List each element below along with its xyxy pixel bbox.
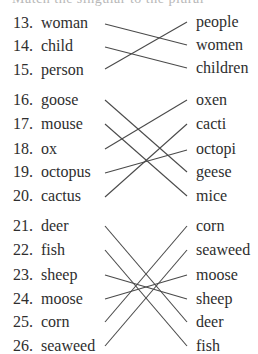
plural-word: moose	[196, 265, 238, 285]
singular-word: ox	[41, 139, 57, 159]
list-item: 16. goose oxen	[0, 90, 258, 110]
singular-word: person	[41, 60, 84, 80]
list-item: 26. seaweed fish	[0, 336, 258, 354]
singular-word: corn	[41, 312, 69, 332]
list-item: 24. moose sheep	[0, 289, 258, 309]
list-item: 13. woman people	[0, 13, 258, 33]
item-number: 25.	[13, 312, 39, 332]
singular-word: sheep	[41, 265, 77, 285]
singular-word: deer	[41, 216, 69, 236]
singular-word: woman	[41, 13, 88, 33]
singular-word: seaweed	[41, 336, 95, 354]
plural-word: oxen	[196, 90, 227, 110]
plural-word: mice	[196, 186, 227, 206]
singular-word: fish	[41, 240, 65, 260]
plural-word: seaweed	[196, 240, 250, 260]
item-number: 20.	[13, 186, 39, 206]
item-number: 18.	[13, 139, 39, 159]
item-number: 17.	[13, 114, 39, 134]
item-number: 23.	[13, 265, 39, 285]
item-number: 24.	[13, 289, 39, 309]
plural-word: corn	[196, 216, 224, 236]
list-item: 17. mouse cacti	[0, 114, 258, 134]
item-number: 21.	[13, 216, 39, 236]
plural-word: fish	[196, 336, 220, 354]
singular-word: cactus	[41, 186, 81, 206]
plural-word: deer	[196, 312, 224, 332]
item-number: 14.	[13, 36, 39, 56]
item-number: 15.	[13, 60, 39, 80]
singular-word: mouse	[41, 114, 83, 134]
item-number: 22.	[13, 240, 39, 260]
plural-word: women	[196, 35, 243, 55]
list-item: 21. deer corn	[0, 216, 258, 236]
singular-word: goose	[41, 90, 78, 110]
plural-word: cacti	[196, 114, 226, 134]
list-item: 15. person children	[0, 60, 258, 80]
list-item: 18. ox octopi	[0, 139, 258, 159]
plural-word: people	[196, 12, 239, 32]
plural-word: children	[196, 58, 248, 78]
singular-word: moose	[41, 289, 83, 309]
list-item: 23. sheep moose	[0, 265, 258, 285]
item-number: 19.	[13, 162, 39, 182]
singular-word: octopus	[41, 162, 91, 182]
list-item: 19. octopus geese	[0, 162, 258, 182]
list-item: 20. cactus mice	[0, 186, 258, 206]
singular-word: child	[41, 36, 73, 56]
item-number: 16.	[13, 90, 39, 110]
item-number: 13.	[13, 13, 39, 33]
list-item: 22. fish seaweed	[0, 240, 258, 260]
list-item: 14. child women	[0, 36, 258, 56]
plural-word: geese	[196, 162, 232, 182]
plural-word: octopi	[196, 139, 236, 159]
list-item: 25. corn deer	[0, 312, 258, 332]
plural-word: sheep	[196, 289, 232, 309]
item-number: 26.	[13, 336, 39, 354]
